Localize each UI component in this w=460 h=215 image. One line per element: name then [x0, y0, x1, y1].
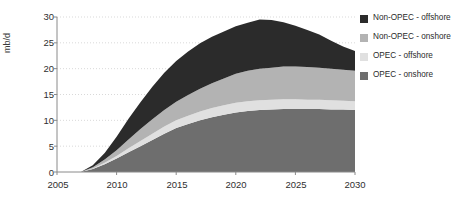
- legend-label: OPEC - onshore: [373, 71, 433, 79]
- y-tick-label: 20: [32, 64, 54, 74]
- legend-item: OPEC - offshore: [360, 48, 460, 65]
- y-tick-label: 5: [32, 142, 54, 152]
- y-tick-label: 10: [32, 116, 54, 126]
- x-tick-label: 2005: [38, 180, 78, 190]
- stacked-area-chart: mb/d 30 25 20 15 10 5 0 2005 2010 2015 2…: [0, 0, 460, 215]
- legend-item: Non-OPEC - offshore: [360, 10, 460, 27]
- y-axis-title: mb/d: [2, 20, 12, 66]
- legend-label: Non-OPEC - offshore: [373, 14, 451, 22]
- chart-legend: Non-OPEC - offshore Non-OPEC - onshore O…: [360, 10, 460, 86]
- area-series-group: [57, 20, 355, 172]
- y-tick-label: 15: [32, 90, 54, 100]
- legend-swatch-icon: [360, 15, 368, 23]
- legend-label: Non-OPEC - onshore: [373, 33, 451, 41]
- y-tick-label: 0: [32, 168, 54, 178]
- legend-swatch-icon: [360, 53, 368, 61]
- x-tick-label: 2025: [276, 180, 316, 190]
- legend-label: OPEC - offshore: [373, 52, 433, 60]
- legend-swatch-icon: [360, 72, 368, 80]
- x-tick-label: 2015: [157, 180, 197, 190]
- x-tick-label: 2020: [216, 180, 256, 190]
- x-tick-label: 2010: [97, 180, 137, 190]
- y-tick-label: 25: [32, 38, 54, 48]
- x-tick-label: 2030: [335, 180, 375, 190]
- legend-item: Non-OPEC - onshore: [360, 29, 460, 46]
- legend-item: OPEC - onshore: [360, 67, 460, 84]
- y-tick-label: 30: [32, 12, 54, 22]
- legend-swatch-icon: [360, 34, 368, 42]
